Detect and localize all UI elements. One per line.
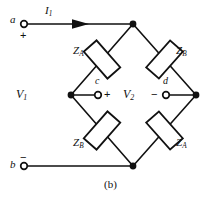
impedance-subscript-0: A [79,50,83,58]
current-subscript: 1 [49,10,53,18]
junction-dot-top [130,21,137,28]
terminal-circle-a [21,21,28,28]
current-arrow-icon [72,19,89,29]
impedance-label-upper-right: ZB [176,45,187,58]
current-label-I1: I1 [45,5,52,18]
impedance-box-upper-left [84,40,121,78]
terminal-label-b: b [10,159,16,170]
voltage-label-V1: V1 [16,88,27,102]
terminal-polarity-b: − [20,152,26,163]
junction-dot-right [193,92,200,99]
voltage-subscript-2: 2 [130,93,134,102]
junction-dot-bottom [130,163,137,170]
impedance-subscript-1: B [182,50,186,58]
node-label-d: d [163,76,168,86]
impedance-label-lower-right: ZA [176,137,187,150]
impedance-box-lower-left [84,111,121,149]
figure-caption: (b) [104,178,117,190]
node-polarity-c: + [104,89,110,100]
terminal-circle-c [95,92,102,99]
circuit-figure: a + b − I1 V1 V2 c + d − ZA ZB ZB ZA (b) [0,0,212,197]
impedance-label-lower-left: ZB [73,137,84,150]
terminal-polarity-a: + [20,30,26,41]
terminal-circle-b [21,163,28,170]
impedance-subscript-3: A [182,142,186,150]
impedance-subscript-2: B [79,142,83,150]
junction-dot-left [68,92,75,99]
terminal-circle-d [163,92,170,99]
terminal-label-a: a [10,14,16,25]
voltage-label-V2: V2 [123,88,134,102]
voltage-subscript-1: 1 [23,93,27,102]
node-label-c: c [95,76,99,86]
impedance-label-upper-left: ZA [73,45,84,58]
node-polarity-d: − [151,89,157,100]
